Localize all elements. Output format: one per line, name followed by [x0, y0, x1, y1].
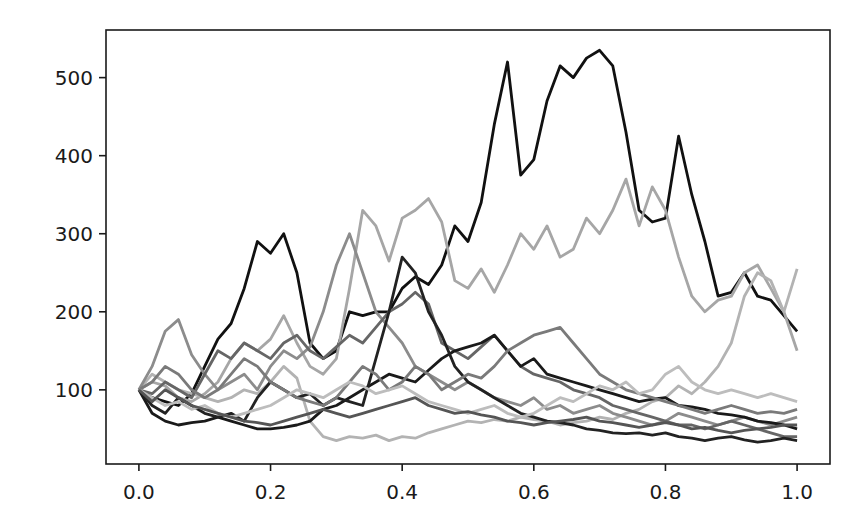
x-tick-label: 0.6: [518, 480, 550, 504]
series-line-8: [139, 327, 797, 413]
x-axis: 0.00.20.40.60.81.0: [123, 464, 813, 504]
x-tick-label: 0.2: [255, 480, 287, 504]
y-tick-label: 500: [55, 66, 93, 90]
y-tick-label: 200: [55, 300, 93, 324]
axes-frame: [106, 30, 830, 464]
series-line-4: [139, 234, 797, 425]
x-tick-label: 1.0: [781, 480, 813, 504]
line-chart: 0.00.20.40.60.81.0 100200300400500: [0, 0, 866, 532]
x-tick-label: 0.0: [123, 480, 155, 504]
x-tick-label: 0.4: [386, 480, 418, 504]
y-axis: 100200300400500: [55, 66, 106, 402]
plot-lines: [139, 50, 797, 442]
y-tick-label: 400: [55, 144, 93, 168]
y-tick-label: 100: [55, 378, 93, 402]
x-tick-label: 0.8: [650, 480, 682, 504]
y-tick-label: 300: [55, 222, 93, 246]
